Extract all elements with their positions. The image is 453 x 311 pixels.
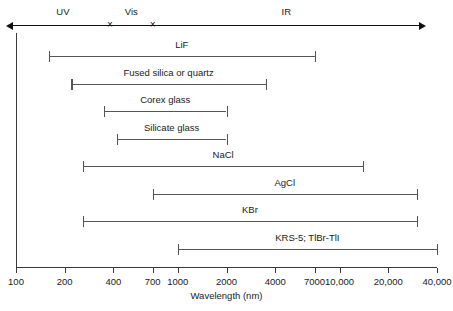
x-axis-tick xyxy=(65,268,66,273)
material-range-row: Fused silica or quartz xyxy=(16,65,437,91)
range-bar-line xyxy=(49,56,315,57)
material-label: KBr xyxy=(242,204,258,215)
range-bar-cap-end xyxy=(227,106,228,117)
x-axis-tick-label: 100 xyxy=(8,276,24,287)
x-axis-tick xyxy=(275,268,276,273)
x-axis-tick-label: 4000 xyxy=(265,276,286,287)
range-bar-line xyxy=(178,249,437,250)
region-arrow-left-icon xyxy=(6,22,13,30)
region-label-vis: Vis xyxy=(125,6,138,17)
x-axis-tick xyxy=(16,268,17,273)
region-axis-line xyxy=(12,25,420,26)
x-axis-tick-label: 1000 xyxy=(167,276,188,287)
x-axis-tick xyxy=(388,268,389,273)
x-axis-tick xyxy=(113,268,114,273)
material-label: AgCl xyxy=(274,177,295,188)
x-axis-tick-label: 700 xyxy=(145,276,161,287)
range-bar-cap-end xyxy=(227,134,228,145)
x-axis-tick xyxy=(153,268,154,273)
material-range-row: KBr xyxy=(16,202,437,228)
material-range-row: AgCl xyxy=(16,175,437,201)
material-range-row: LiF xyxy=(16,37,437,63)
range-bar-line xyxy=(117,139,227,140)
range-bar-cap-start xyxy=(83,216,84,227)
x-axis-tick xyxy=(315,268,316,273)
material-range-row: Corex glass xyxy=(16,92,437,118)
plot-area: LiFFused silica or quartzCorex glassSili… xyxy=(16,33,437,268)
x-axis-tick-label: 20,000 xyxy=(374,276,403,287)
range-bar-cap-end xyxy=(437,244,438,255)
material-label: Silicate glass xyxy=(144,122,199,133)
range-bar-line xyxy=(153,194,417,195)
range-bar-line xyxy=(83,166,363,167)
x-axis-tick-label: 400 xyxy=(105,276,121,287)
material-label: Fused silica or quartz xyxy=(123,67,213,78)
range-bar-cap-start xyxy=(178,244,179,255)
x-axis-tick-label: 40,000 xyxy=(422,276,451,287)
region-label-uv: UV xyxy=(56,6,69,17)
material-label: KRS-5; TlBr-TlI xyxy=(275,232,339,243)
range-bar-cap-end xyxy=(417,189,418,200)
spectral-region-band: UVVisIR×× xyxy=(0,0,453,33)
range-bar-cap-end xyxy=(315,51,316,62)
material-label: NaCl xyxy=(213,149,234,160)
region-divider-0-icon: × xyxy=(107,20,113,30)
range-bar-cap-end xyxy=(266,79,267,90)
material-range-row: Silicate glass xyxy=(16,120,437,146)
range-bar-cap-start xyxy=(117,134,118,145)
range-bar-cap-end xyxy=(363,161,364,172)
range-bar-cap-end xyxy=(417,216,418,227)
material-label: LiF xyxy=(175,39,188,50)
material-label: Corex glass xyxy=(140,94,190,105)
x-axis-tick xyxy=(227,268,228,273)
region-arrow-right-icon xyxy=(419,22,426,30)
transmission-range-chart: UVVisIR×× LiFFused silica or quartzCorex… xyxy=(0,0,453,311)
material-range-row: KRS-5; TlBr-TlI xyxy=(16,230,437,256)
range-bar-cap-start xyxy=(49,51,50,62)
material-range-row: NaCl xyxy=(16,147,437,173)
x-axis-tick-label: 200 xyxy=(57,276,73,287)
region-label-ir: IR xyxy=(282,6,292,17)
x-axis-tick xyxy=(340,268,341,273)
range-bar-cap-start xyxy=(153,189,154,200)
range-bar-line xyxy=(71,84,265,85)
x-axis-title: Wavelength (nm) xyxy=(0,290,453,301)
x-axis-tick xyxy=(178,268,179,273)
x-axis-tick xyxy=(437,268,438,273)
range-bar-line xyxy=(104,111,226,112)
x-axis-tick-label: 10,000 xyxy=(325,276,354,287)
range-bar-line xyxy=(83,221,417,222)
range-bar-cap-start xyxy=(83,161,84,172)
range-bar-cap-start xyxy=(104,106,105,117)
range-bar-cap-start xyxy=(71,79,72,90)
x-axis-tick-label: 7000 xyxy=(304,276,325,287)
x-axis-tick-label: 2000 xyxy=(216,276,237,287)
region-divider-1-icon: × xyxy=(150,20,156,30)
